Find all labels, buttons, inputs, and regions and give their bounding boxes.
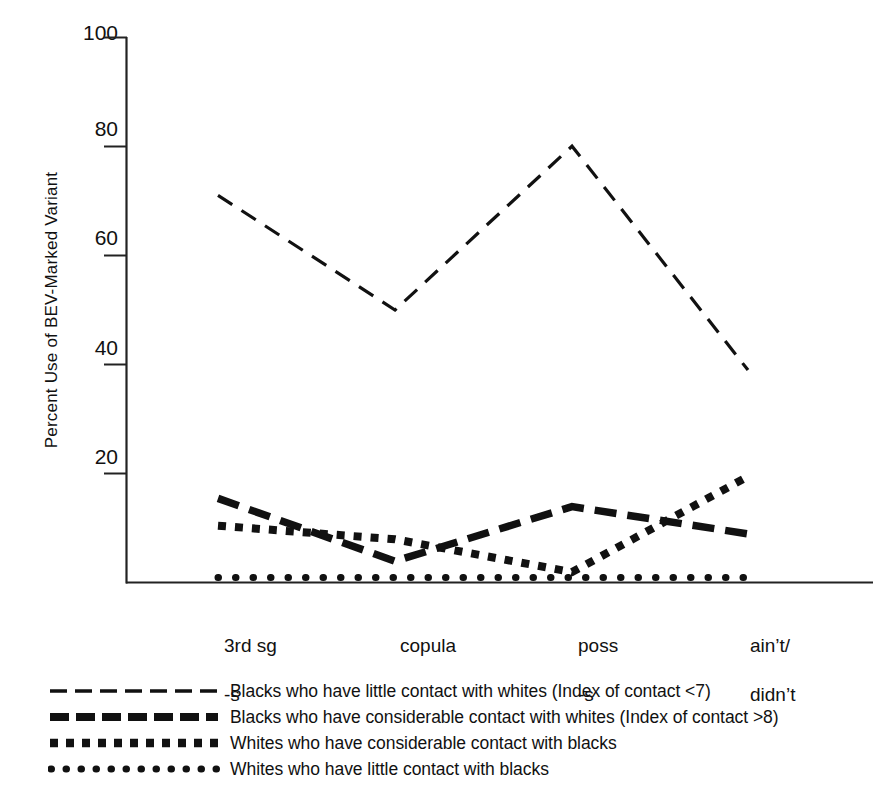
thin-dashed-line-swatch xyxy=(48,682,220,700)
legend-item-whites-little-contact: Whites who have little contact with blac… xyxy=(48,756,887,782)
x-tick-label-poss-line1: poss xyxy=(578,635,618,656)
legend-item-blacks-little-contact: Blacks who have little contact with whit… xyxy=(48,678,887,704)
legend-label-whites-considerable-contact: Whites who have considerable contact wit… xyxy=(230,733,617,754)
series-line-blacks-considerable-contact xyxy=(218,498,748,561)
x-tick-label-copula: copula xyxy=(400,610,456,659)
legend-label-whites-little-contact: Whites who have little contact with blac… xyxy=(230,759,549,780)
x-tick-label-aint-didnt-line1: ain’t/ xyxy=(750,635,790,656)
thick-dashed-line-swatch xyxy=(48,708,220,726)
axis-lines xyxy=(126,37,873,584)
chart-legend: Blacks who have little contact with whit… xyxy=(48,678,887,782)
chart-figure: Percent Use of BEV-Marked Variant 100 80… xyxy=(0,0,887,793)
thick-square-dotted-line-swatch xyxy=(48,734,220,752)
legend-item-blacks-considerable-contact: Blacks who have considerable contact wit… xyxy=(48,704,887,730)
x-tick-label-3rd-sg-line1: 3rd sg xyxy=(224,635,277,656)
y-axis-ticks xyxy=(104,38,127,474)
series-line-blacks-little-contact xyxy=(218,146,748,370)
x-tick-label-copula-line1: copula xyxy=(400,635,456,656)
legend-item-whites-considerable-contact: Whites who have considerable contact wit… xyxy=(48,730,887,756)
fine-dotted-line-swatch xyxy=(48,760,220,778)
legend-label-blacks-little-contact: Blacks who have little contact with whit… xyxy=(230,681,711,702)
legend-label-blacks-considerable-contact: Blacks who have considerable contact wit… xyxy=(230,707,779,728)
